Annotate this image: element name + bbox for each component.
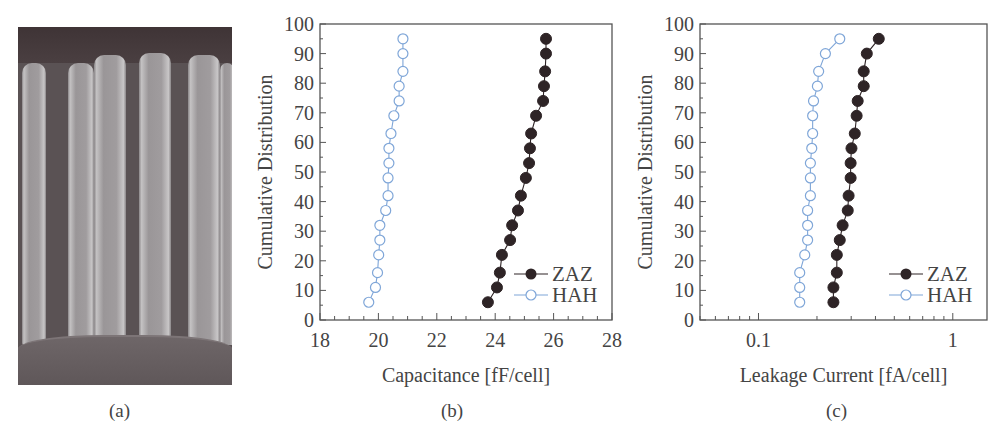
legend-marker-hah bbox=[901, 290, 911, 300]
legend-marker-zaz bbox=[526, 269, 537, 280]
data-point-zaz bbox=[496, 249, 507, 260]
data-point-hah bbox=[800, 250, 810, 260]
data-point-hah bbox=[383, 173, 393, 183]
data-point-hah bbox=[812, 81, 822, 91]
data-point-hah bbox=[805, 173, 815, 183]
caption-b: (b) bbox=[441, 400, 463, 422]
data-point-zaz bbox=[515, 190, 526, 201]
y-tick-label: 30 bbox=[674, 220, 694, 242]
data-point-zaz bbox=[846, 143, 857, 154]
data-point-hah bbox=[809, 96, 819, 106]
x-tick-label: 18 bbox=[310, 329, 330, 351]
y-tick-label: 80 bbox=[674, 72, 694, 94]
data-point-hah bbox=[386, 129, 396, 139]
data-point-zaz bbox=[512, 205, 523, 216]
data-point-hah bbox=[807, 143, 817, 153]
y-tick-label: 60 bbox=[674, 131, 694, 153]
data-point-hah bbox=[808, 111, 818, 121]
data-point-zaz bbox=[491, 282, 502, 293]
data-point-zaz bbox=[531, 110, 542, 121]
data-point-zaz bbox=[849, 128, 860, 139]
y-tick-label: 60 bbox=[294, 131, 314, 153]
data-point-zaz bbox=[845, 158, 856, 169]
data-point-zaz bbox=[837, 220, 848, 231]
y-tick-label: 100 bbox=[284, 13, 314, 35]
data-point-hah bbox=[383, 191, 393, 201]
data-point-zaz bbox=[538, 95, 549, 106]
data-point-hah bbox=[373, 268, 383, 278]
series-line-zaz bbox=[488, 39, 546, 302]
data-point-hah bbox=[394, 96, 404, 106]
data-point-zaz bbox=[851, 110, 862, 121]
data-point-hah bbox=[803, 235, 813, 245]
data-point-zaz bbox=[524, 158, 535, 169]
data-point-hah bbox=[384, 158, 394, 168]
data-point-zaz bbox=[831, 249, 842, 260]
y-tick-label: 10 bbox=[674, 279, 694, 301]
y-tick-label: 0 bbox=[304, 309, 314, 331]
data-point-hah bbox=[375, 220, 385, 230]
caption-c: (c) bbox=[826, 400, 847, 422]
data-point-zaz bbox=[540, 66, 551, 77]
x-tick-label: 22 bbox=[427, 329, 447, 351]
y-tick-label: 70 bbox=[674, 102, 694, 124]
data-point-hah bbox=[364, 297, 374, 307]
data-point-hah bbox=[370, 282, 380, 292]
x-axis-label: Capacitance [fF/cell] bbox=[382, 364, 550, 387]
y-tick-label: 80 bbox=[294, 72, 314, 94]
series-line-hah bbox=[369, 39, 403, 302]
data-point-zaz bbox=[524, 143, 535, 154]
data-point-hah bbox=[394, 81, 404, 91]
data-point-zaz bbox=[858, 66, 869, 77]
y-tick-label: 30 bbox=[294, 220, 314, 242]
y-tick-label: 100 bbox=[664, 13, 694, 35]
series-line-hah bbox=[800, 39, 840, 302]
chart-c: 01020304050607080901000.11Leakage Curren… bbox=[634, 13, 987, 387]
x-tick-label: 26 bbox=[544, 329, 564, 351]
data-point-zaz bbox=[873, 33, 884, 44]
data-point-hah bbox=[814, 66, 824, 76]
y-tick-label: 90 bbox=[674, 43, 694, 65]
data-point-zaz bbox=[828, 297, 839, 308]
data-point-zaz bbox=[538, 81, 549, 92]
y-tick-label: 10 bbox=[294, 279, 314, 301]
y-axis-label: Cumulative Distribution bbox=[254, 75, 276, 270]
chart-b: 0102030405060708090100182022242628Capaci… bbox=[254, 13, 622, 387]
data-point-hah bbox=[398, 49, 408, 59]
data-point-zaz bbox=[843, 190, 854, 201]
data-point-hah bbox=[805, 158, 815, 168]
data-point-zaz bbox=[858, 81, 869, 92]
data-point-hah bbox=[374, 250, 384, 260]
data-point-hah bbox=[795, 282, 805, 292]
legend-marker-hah bbox=[526, 290, 536, 300]
y-tick-label: 50 bbox=[294, 161, 314, 183]
data-point-hah bbox=[795, 297, 805, 307]
data-point-hah bbox=[803, 220, 813, 230]
x-tick-label: 0.1 bbox=[746, 329, 771, 351]
y-tick-label: 40 bbox=[294, 191, 314, 213]
data-point-hah bbox=[820, 49, 830, 59]
legend-label-hah: HAH bbox=[927, 283, 973, 307]
data-point-hah bbox=[835, 34, 845, 44]
x-axis-label: Leakage Current [fA/cell] bbox=[740, 364, 948, 387]
y-tick-label: 0 bbox=[684, 309, 694, 331]
data-point-hah bbox=[805, 191, 815, 201]
data-point-zaz bbox=[831, 267, 842, 278]
data-point-hah bbox=[384, 143, 394, 153]
x-tick-label: 20 bbox=[368, 329, 388, 351]
data-point-zaz bbox=[520, 172, 531, 183]
legend-marker-zaz bbox=[901, 269, 912, 280]
x-tick-label: 24 bbox=[485, 329, 505, 351]
y-tick-label: 50 bbox=[674, 161, 694, 183]
data-point-zaz bbox=[852, 95, 863, 106]
data-point-hah bbox=[398, 34, 408, 44]
y-tick-label: 90 bbox=[294, 43, 314, 65]
data-point-zaz bbox=[505, 235, 516, 246]
data-point-zaz bbox=[828, 282, 839, 293]
data-point-hah bbox=[398, 66, 408, 76]
data-point-zaz bbox=[526, 128, 537, 139]
data-point-zaz bbox=[834, 235, 845, 246]
data-point-zaz bbox=[861, 48, 872, 59]
capacitance-chart: 0102030405060708090100182022242628Capaci… bbox=[0, 0, 1008, 444]
data-point-hah bbox=[803, 205, 813, 215]
